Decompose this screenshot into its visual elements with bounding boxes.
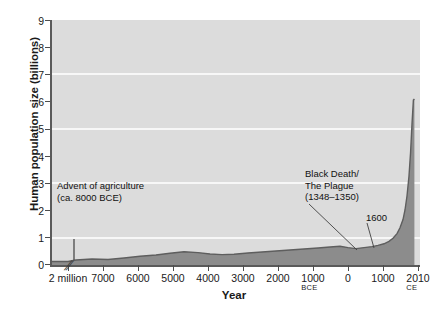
y-tick-label: 3 — [30, 179, 44, 190]
x-tick-label: 1000 — [371, 272, 394, 284]
x-tick-label-text: 6000 — [126, 272, 149, 284]
annotation-line: 1600 — [366, 212, 387, 224]
x-tick-label-text: 4000 — [196, 272, 219, 284]
y-axis-tick-labels: 9 8 7 6 5 4 3 2 1 0 — [22, 0, 44, 317]
x-tick-label-text: 2000 — [266, 272, 289, 284]
x-tick-label: 0 — [345, 272, 351, 284]
x-tick-label-text: 0 — [345, 272, 351, 284]
y-tick-label: 1 — [30, 233, 44, 244]
x-tick-label: 2 million — [49, 272, 88, 284]
x-tick-mark — [313, 265, 314, 271]
x-tick-label: 5000 — [161, 272, 184, 284]
x-tick-mark — [348, 265, 349, 271]
y-tick-label: 0 — [30, 260, 44, 271]
y-tick-label: 4 — [30, 152, 44, 163]
x-tick-mark — [243, 265, 244, 271]
x-tick-mark — [173, 265, 174, 271]
annotation-line: Advent of agriculture — [57, 180, 144, 192]
y-tick-label: 6 — [30, 97, 44, 108]
annotation-black-death: Black Death/ The Plague (1348–1350) — [305, 168, 359, 203]
x-tick-label: 3000 — [231, 272, 254, 284]
x-tick-mark — [278, 265, 279, 271]
y-tick-label: 8 — [30, 43, 44, 54]
x-axis-title: Year — [50, 289, 418, 301]
x-tick-label: 7000 — [91, 272, 114, 284]
x-tick-mark — [208, 265, 209, 271]
annotation-line: Black Death/ — [305, 168, 359, 180]
x-tick-mark — [383, 265, 384, 271]
x-tick-label: 4000 — [196, 272, 219, 284]
population-growth-chart: Human population size (billions) 9 8 7 6… — [0, 0, 438, 317]
annotation-year-1600: 1600 — [366, 212, 387, 224]
x-tick-label-text: 3000 — [231, 272, 254, 284]
plot-area — [50, 20, 420, 267]
annotation-line: The Plague — [305, 180, 359, 192]
annotation-line: (1348–1350) — [305, 191, 359, 203]
x-axis-ticks: 2 million 7000 6000 5000 4000 3000 2000 … — [50, 265, 420, 273]
annotation-line: (ca. 8000 BCE) — [57, 192, 144, 204]
x-tick-label-text: 2 million — [49, 272, 88, 284]
y-tick-label: 2 — [30, 206, 44, 217]
y-tick-label: 7 — [30, 70, 44, 81]
x-tick-mark — [103, 265, 104, 271]
x-tick-label: 6000 — [126, 272, 149, 284]
y-tick-label: 5 — [30, 124, 44, 135]
annotation-advent-of-agriculture: Advent of agriculture (ca. 8000 BCE) — [57, 180, 144, 203]
x-tick-mark — [418, 265, 419, 271]
y-tick-label: 9 — [30, 16, 44, 27]
population-area-series — [52, 20, 420, 265]
x-tick-label-text: 1000 — [371, 272, 394, 284]
x-tick-label-text: 7000 — [91, 272, 114, 284]
x-tick-label-text: 5000 — [161, 272, 184, 284]
x-tick-mark — [138, 265, 139, 271]
x-tick-label: 2000 — [266, 272, 289, 284]
